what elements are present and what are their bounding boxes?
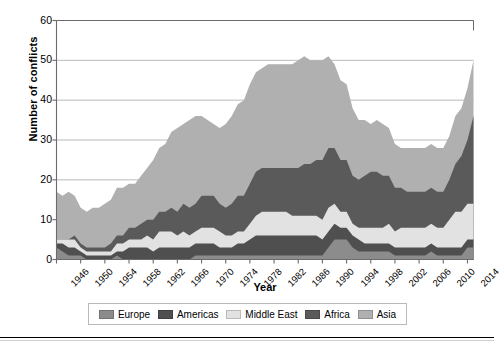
footer-rule: [0, 337, 494, 338]
y-tick-label: 20: [30, 174, 52, 185]
legend-swatch-icon: [305, 310, 320, 319]
legend-item-africa[interactable]: Africa: [305, 309, 350, 320]
legend-label: Americas: [177, 309, 219, 320]
legend-item-americas[interactable]: Americas: [158, 309, 219, 320]
legend-swatch-icon: [226, 310, 241, 319]
x-axis-title: Year: [56, 281, 474, 293]
legend-label: Asia: [377, 309, 396, 320]
y-tick-label: 10: [30, 214, 52, 225]
chart-legend: EuropeAmericasMiddle EastAfricaAsia: [88, 303, 407, 325]
y-tick-label: 60: [30, 15, 52, 26]
footer-rule-secondary: [0, 340, 494, 341]
legend-swatch-icon: [99, 310, 114, 319]
y-tick-label: 0: [30, 254, 52, 265]
legend-swatch-icon: [358, 310, 373, 319]
y-tick-label: 50: [30, 54, 52, 65]
legend-label: Europe: [118, 309, 150, 320]
legend-label: Africa: [324, 309, 350, 320]
legend-item-europe[interactable]: Europe: [99, 309, 150, 320]
y-tick-label: 30: [30, 134, 52, 145]
legend-swatch-icon: [158, 310, 173, 319]
y-tick-label: 40: [30, 94, 52, 105]
legend-item-asia[interactable]: Asia: [358, 309, 396, 320]
legend-label: Middle East: [245, 309, 297, 320]
legend-item-middle-east[interactable]: Middle East: [226, 309, 297, 320]
